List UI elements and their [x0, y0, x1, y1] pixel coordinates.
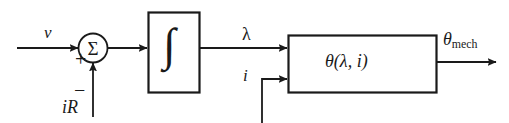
label-input-voltage: v [44, 24, 52, 41]
label-flux-linkage: λ [242, 25, 251, 43]
wire-current-input [262, 79, 287, 123]
label-resistive-drop: iR [62, 98, 78, 116]
label-sum-plus: + [75, 49, 86, 69]
label-theta-mech: θmech [443, 30, 478, 48]
label-current-input: i [243, 67, 248, 84]
label-theta-mech-subscript: mech [452, 37, 478, 51]
block-diagram: Σ v + − iR ∫ λ i θ(λ, i) θmech [0, 0, 509, 123]
integral-icon: ∫ [163, 22, 176, 68]
label-theta-mech-symbol: θ [443, 29, 452, 49]
label-theta-function: θ(λ, i) [325, 52, 368, 70]
summing-junction-symbol: Σ [87, 38, 98, 59]
